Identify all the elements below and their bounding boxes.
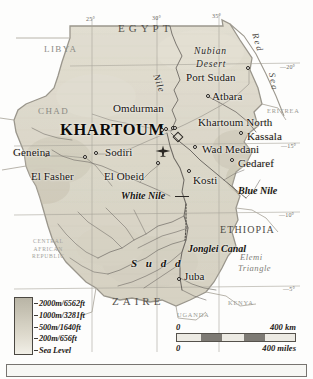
- scale-miles-start: 0: [176, 343, 180, 353]
- latitude-label-0: —20°: [280, 64, 295, 70]
- city-label-el-obeid: El Obeid: [104, 171, 144, 182]
- legend-row-0: 2000m/6562ft: [34, 298, 85, 309]
- city-label-gedaref: Gedaref: [238, 158, 274, 169]
- scale-seg-5: [265, 334, 295, 341]
- white-nile-leader-line: [175, 196, 189, 197]
- legend-tick-0: [34, 303, 38, 304]
- city-label-atbara: Atbara: [212, 91, 243, 102]
- legend-row-4: Sea Level: [34, 345, 85, 356]
- scale-bar-graphic: [176, 333, 296, 342]
- latitude-label-3: —5°: [283, 286, 295, 292]
- legend-row-3: 200m/656ft: [34, 333, 85, 344]
- scale-miles-row: 0 400 miles: [176, 343, 296, 353]
- country-label-chad: CHAD: [38, 107, 69, 116]
- city-label-kosti: Kosti: [193, 175, 217, 186]
- scale-miles-end: 400 miles: [262, 343, 296, 353]
- region-label-triangle: Triangle: [238, 263, 271, 274]
- city-label-sodiri: Sodiri: [105, 147, 133, 158]
- physical-label-white-nile: White Nile: [121, 191, 165, 201]
- country-label-car-line-2: REPUBLIC: [32, 253, 65, 261]
- legend-label-2: 500m/1640ft: [39, 323, 81, 332]
- legend-label-0: 2000m/6562ft: [39, 299, 85, 308]
- scale-seg-2: [201, 334, 223, 341]
- legend-label-1: 1000m/3281ft: [39, 311, 85, 320]
- country-label-ethiopia: ETHIOPIA: [220, 225, 275, 235]
- city-label-geneina: Geneina: [13, 147, 50, 158]
- city-label-omdurman: Omdurman: [113, 103, 164, 114]
- legend-label-3: 200m/656ft: [39, 334, 77, 343]
- physical-label-desert: Desert: [196, 60, 226, 70]
- city-label-el-fasher: El Fasher: [31, 171, 74, 182]
- city-label-juba: Juba: [184, 271, 205, 282]
- sudan-map: 25°30°35° —20°—15°—10°—5° EGYPTLIBYACHAD…: [0, 0, 313, 379]
- scale-bar: 0 400 km 0 400 miles: [176, 322, 296, 353]
- legend-tick-2: [34, 327, 38, 328]
- physical-label-nubian: Nubian: [194, 47, 227, 57]
- city-label-khartoum: KHARTOUM: [60, 122, 165, 139]
- physical-label-blue-nile: Blue Nile: [238, 186, 277, 196]
- city-label-port-sudan: Port Sudan: [186, 72, 236, 83]
- city-label-kassala: Kassala: [247, 131, 282, 142]
- scale-km-start: 0: [176, 322, 180, 332]
- city-label-wad-medani: Wad Medani: [202, 144, 259, 155]
- longitude-label-2: 35°: [212, 13, 221, 19]
- country-label-central-african-republic: CENTRALAFRICANREPUBLIC: [32, 238, 65, 261]
- elevation-legend: 2000m/6562ft1000m/3281ft500m/1640ft200m/…: [14, 297, 85, 356]
- elevation-legend-labels: 2000m/6562ft1000m/3281ft500m/1640ft200m/…: [34, 297, 85, 356]
- latitude-label-2: —10°: [279, 212, 294, 218]
- country-label-uganda: UGANDA: [177, 312, 210, 318]
- bottom-border-strip: [6, 364, 307, 377]
- physical-label-sea: Sea: [267, 72, 279, 92]
- longitude-label-0: 25°: [86, 16, 95, 22]
- longitude-label-1: 30°: [152, 15, 161, 21]
- country-label-libya: LIBYA: [44, 45, 78, 54]
- physical-label-jonglei-canal: Jonglei Canal: [188, 244, 246, 254]
- country-label-eritrea: ERITREA: [267, 108, 300, 114]
- scale-km-end: 400 km: [270, 322, 296, 332]
- legend-row-2: 500m/1640ft: [34, 322, 85, 333]
- country-label-kenya: KENYA: [228, 300, 254, 306]
- country-label-car-line-0: CENTRAL: [32, 238, 65, 246]
- legend-tick-1: [34, 315, 38, 316]
- scale-km-row: 0 400 km: [176, 322, 296, 332]
- physical-label-s-u-d-d: S u d d: [131, 258, 184, 269]
- scale-seg-1: [177, 334, 201, 341]
- country-label-egypt: EGYPT: [118, 23, 173, 34]
- country-label-car-line-1: AFRICAN: [32, 246, 65, 254]
- latitude-label-1: —15°: [281, 143, 296, 149]
- scale-seg-3: [222, 334, 244, 341]
- legend-tick-4: [34, 350, 38, 351]
- scale-seg-4: [244, 334, 265, 341]
- city-label-khartoum-north: Khartoum North: [198, 117, 272, 128]
- legend-row-1: 1000m/3281ft: [34, 310, 85, 321]
- country-label-zaire: ZAIRE: [112, 296, 164, 307]
- region-label-elemi: Elemi: [240, 252, 263, 263]
- legend-label-4: Sea Level: [39, 346, 71, 355]
- elevation-gradient-bar: [14, 297, 33, 355]
- legend-tick-3: [34, 338, 38, 339]
